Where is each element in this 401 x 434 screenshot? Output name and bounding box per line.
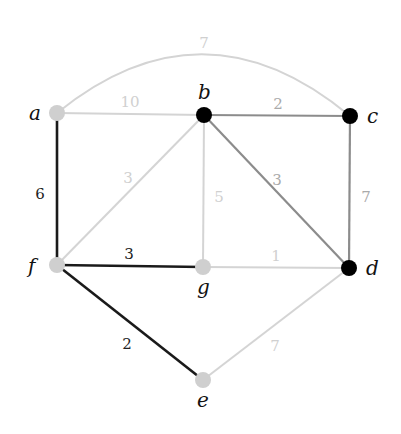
- edge-f-e: [57, 265, 203, 380]
- edge-weight-e-d: 7: [270, 337, 280, 355]
- node-f: [49, 257, 65, 273]
- node-a: [49, 105, 65, 121]
- edge-e-d: [203, 268, 349, 380]
- edge-f-g: [57, 265, 203, 267]
- node-label-f: f: [26, 254, 39, 278]
- edge-weight-f-e: 2: [122, 335, 132, 353]
- node-c: [342, 108, 358, 124]
- edge-b-g: [203, 115, 204, 267]
- edge-b-d: [204, 115, 349, 268]
- node-label-c: c: [367, 104, 378, 128]
- edge-c-d: [349, 116, 350, 268]
- edge-weight-a-c: 7: [199, 34, 209, 52]
- edge-weight-a-f: 6: [35, 185, 45, 203]
- edge-weight-b-f: 3: [123, 169, 133, 187]
- edge-a-b: [57, 113, 204, 115]
- edge-weight-a-b: 10: [120, 93, 139, 111]
- edge-weight-c-d: 7: [361, 188, 371, 206]
- node-g: [195, 259, 211, 275]
- node-label-g: g: [197, 275, 210, 299]
- node-b: [196, 107, 212, 123]
- edge-weight-f-g: 3: [124, 245, 134, 263]
- node-d: [341, 260, 357, 276]
- edge-weight-b-g: 5: [214, 188, 224, 206]
- edge-weight-b-d: 3: [272, 171, 282, 189]
- graph-svg: 7102635373127 abcdfge: [0, 0, 401, 434]
- edge-b-c: [204, 115, 350, 116]
- node-e: [195, 372, 211, 388]
- graph-diagram: 7102635373127 abcdfge: [0, 0, 401, 434]
- edge-weight-g-d: 1: [271, 247, 281, 265]
- node-label-d: d: [366, 256, 379, 280]
- edge-b-f: [57, 115, 204, 265]
- node-label-a: a: [29, 101, 41, 125]
- node-label-e: e: [197, 388, 209, 412]
- edge-g-d: [203, 267, 349, 268]
- node-label-b: b: [198, 80, 211, 104]
- edge-weight-b-c: 2: [273, 95, 283, 113]
